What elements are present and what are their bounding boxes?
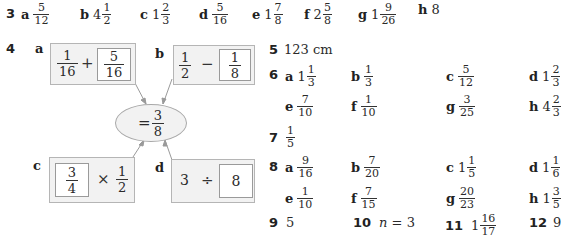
whole-number: 1 (264, 7, 272, 22)
numerator: 7 (368, 155, 377, 167)
q4-box-b: 1 2 − 1 8 (173, 45, 255, 85)
whole-number: 1 (371, 7, 379, 22)
q7-answer: 7 1 5 (269, 125, 295, 150)
numerator: 7 (301, 94, 310, 106)
numerator: 2 (552, 94, 561, 106)
q10-variable: n (379, 215, 387, 230)
q4-box-c: 3 4 × 1 2 (49, 157, 135, 203)
item-label: h (418, 2, 427, 17)
q4d-answer-box[interactable]: 8 (219, 164, 253, 198)
numerator: 3 (552, 186, 561, 198)
arrowhead-a (141, 98, 146, 104)
question-number-12: 12 (529, 215, 547, 230)
fraction: 35 (552, 186, 561, 211)
q4a-right-fraction: 5 16 (104, 49, 125, 80)
whole-number: 1 (152, 7, 160, 22)
fraction: 23 (551, 64, 560, 89)
denominator: 5 (552, 198, 561, 211)
result-ellipse: = 3 8 (115, 104, 187, 142)
answer-item: a113 (285, 64, 316, 89)
question-number-5: 5 (269, 42, 278, 57)
item-label: f (351, 99, 357, 114)
whole-number: 8 (431, 2, 439, 17)
numerator: 1 (364, 94, 373, 106)
fraction: 13 (364, 64, 373, 89)
fraction: 58 (323, 2, 332, 27)
q4-box-d: 3 ÷ 8 (171, 159, 255, 203)
whole-number: 4 (542, 99, 550, 114)
fraction: 916 (297, 155, 313, 180)
question-number-6: 6 (269, 67, 278, 82)
denominator: 12 (458, 76, 474, 89)
equals-sign: = (138, 114, 151, 132)
q4c-left-fraction: 3 4 (66, 165, 78, 196)
answer-item: c115 (446, 155, 476, 180)
q4b-answer-box[interactable]: 1 8 (219, 49, 251, 81)
answer-item: f258 (304, 2, 332, 27)
item-label: e (285, 191, 293, 206)
item-label: c (446, 160, 454, 175)
q11-whole: 1 (471, 218, 479, 233)
numerator: 3 (463, 94, 472, 106)
whole-number: 1 (458, 160, 466, 175)
denominator: 10 (297, 198, 313, 211)
fraction: 13 (307, 64, 316, 89)
fraction: 23 (161, 2, 170, 27)
item-label: b (351, 69, 360, 84)
numerator: 9 (384, 2, 393, 14)
answer-item: h135 (529, 186, 561, 211)
arrowhead-b (162, 98, 166, 104)
q4d-left-value: 3 (180, 172, 189, 188)
denominator: 3 (161, 14, 170, 27)
numerator: 1 (467, 155, 476, 167)
numerator: 1 (364, 64, 373, 76)
denominator: 6 (551, 167, 560, 180)
answer-item: b412 (80, 2, 111, 27)
q4d-right-value: 8 (232, 173, 241, 189)
q9-value: 5 (286, 215, 294, 230)
q7-fraction: 1 5 (286, 125, 295, 150)
numerator: 1 (301, 186, 310, 198)
item-label: d (529, 69, 538, 84)
item-label: e (252, 7, 260, 22)
whole-number: 4 (93, 7, 101, 22)
item-label: a (285, 69, 293, 84)
fraction: 715 (361, 186, 377, 211)
numerator: 5 (216, 2, 225, 14)
numerator: 1 (551, 155, 560, 167)
fraction: 23 (552, 94, 561, 119)
numerator: 20 (459, 186, 475, 198)
answer-item: d123 (529, 64, 560, 89)
item-label: a (285, 160, 293, 175)
denominator: 15 (361, 198, 377, 211)
item-label: c (140, 7, 148, 22)
q4a-answer-box[interactable]: 5 16 (97, 48, 131, 81)
question-number-7: 7 (269, 130, 278, 145)
item-label: h (529, 99, 538, 114)
fraction: 2023 (459, 186, 475, 211)
answer-item: e110 (285, 186, 313, 211)
q5-value: 123 cm (284, 42, 333, 57)
answer-item: g1926 (358, 2, 396, 27)
q4d-operator: ÷ (201, 171, 214, 189)
q4b-right-fraction: 1 8 (229, 50, 241, 81)
q11-fraction: 16 17 (480, 213, 496, 236)
item-label: f (304, 7, 310, 22)
q4-label-b: b (155, 46, 164, 61)
answer-item: a916 (285, 155, 313, 180)
item-label: d (529, 160, 538, 175)
q4c-answer-box[interactable]: 3 4 (55, 163, 89, 197)
item-label: g (446, 191, 455, 206)
answer-item: d516 (199, 2, 228, 27)
fraction: 512 (33, 2, 49, 27)
q12-answer: 12 9 (529, 215, 561, 230)
answer-item: h8 (418, 2, 441, 17)
item-label: h (529, 191, 538, 206)
answer-item: h423 (529, 94, 561, 119)
denominator: 10 (361, 106, 377, 119)
q5-answer: 5 123 cm (269, 42, 333, 57)
item-label: c (446, 69, 454, 84)
fraction: 512 (458, 64, 474, 89)
answer-item: g325 (446, 94, 475, 119)
item-label: d (199, 7, 208, 22)
